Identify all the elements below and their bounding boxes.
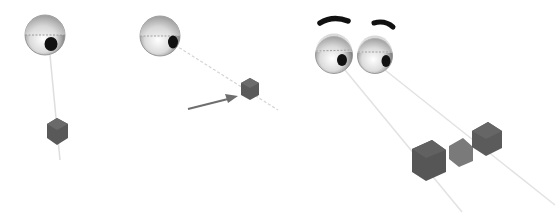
panel-2 xyxy=(140,16,278,110)
arrow-icon xyxy=(188,94,238,109)
gaze-line xyxy=(385,70,555,205)
cube-medium xyxy=(472,122,502,156)
pupil xyxy=(382,55,391,67)
eyebrow-right xyxy=(374,22,393,27)
cube-large xyxy=(412,140,446,181)
panel-1 xyxy=(25,15,68,160)
eyeball xyxy=(140,16,180,56)
eyebrow-left xyxy=(320,18,348,23)
cube-small xyxy=(449,138,473,167)
diagram-scene xyxy=(0,0,558,217)
pupil xyxy=(45,37,58,51)
pupil xyxy=(168,36,178,49)
eyeball-right xyxy=(358,36,393,74)
gaze-line xyxy=(50,55,60,160)
cube xyxy=(47,118,68,145)
gaze-line xyxy=(345,70,462,212)
pupil xyxy=(337,54,347,66)
eyeball-left xyxy=(316,34,353,74)
eyeball xyxy=(25,15,65,55)
panel-3 xyxy=(316,18,556,212)
